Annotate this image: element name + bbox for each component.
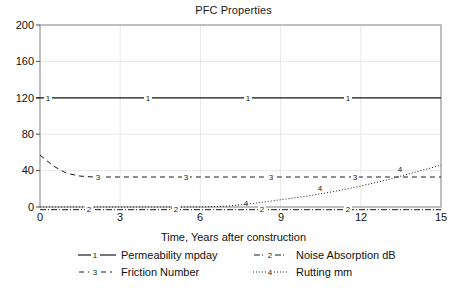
svg-text:2: 2 <box>87 205 92 214</box>
svg-text:1: 1 <box>146 94 151 103</box>
legend-swatch-dashdot-icon: 2 <box>253 249 293 261</box>
legend-entry-permeability: 1 Permeability mpday <box>78 249 253 261</box>
svg-text:1: 1 <box>246 94 251 103</box>
legend-row-2: 3 Friction Number 4 Rutting mm <box>78 263 418 280</box>
series-friction-number: 3 3 3 3 <box>40 155 441 182</box>
svg-text:3: 3 <box>184 173 189 182</box>
xtick-label-6: 6 <box>185 211 215 223</box>
svg-text:1: 1 <box>346 94 351 103</box>
ytick-label-200: 200 <box>0 19 34 31</box>
svg-text:3: 3 <box>93 268 98 277</box>
svg-text:4: 4 <box>244 199 249 208</box>
svg-text:3: 3 <box>353 173 358 182</box>
legend-label-rutting: Rutting mm <box>296 266 352 278</box>
series-permeability-mpday: 1 1 1 1 <box>36 93 441 104</box>
legend-label-noise-absorption: Noise Absorption dB <box>296 249 396 261</box>
legend-label-permeability: Permeability mpday <box>121 249 218 261</box>
legend-entry-noise-absorption: 2 Noise Absorption dB <box>253 249 396 261</box>
legend-swatch-dotted-icon: 4 <box>253 266 293 278</box>
x-axis-label: Time, Years after construction <box>0 231 467 243</box>
legend-swatch-dashed-icon: 3 <box>78 266 118 278</box>
xtick-label-9: 9 <box>266 211 296 223</box>
svg-text:4: 4 <box>268 268 273 277</box>
series-noise-absorption-db: 2 2 2 2 <box>40 204 441 214</box>
y-axis-ticks <box>36 25 40 207</box>
legend-row-1: 1 Permeability mpday 2 Noise Absorption … <box>78 246 418 263</box>
svg-text:2: 2 <box>174 205 179 214</box>
legend-entry-friction-number: 3 Friction Number <box>78 266 253 278</box>
chart-legend: 1 Permeability mpday 2 Noise Absorption … <box>78 246 418 280</box>
svg-text:2: 2 <box>260 205 265 214</box>
svg-text:4: 4 <box>398 165 403 174</box>
xtick-label-3: 3 <box>105 211 135 223</box>
xtick-label-15: 15 <box>426 211 456 223</box>
svg-text:2: 2 <box>268 251 273 260</box>
legend-entry-rutting: 4 Rutting mm <box>253 266 352 278</box>
svg-text:4: 4 <box>318 184 323 193</box>
ytick-label-40: 40 <box>0 164 34 176</box>
svg-text:3: 3 <box>96 173 101 182</box>
xtick-label-12: 12 <box>346 211 376 223</box>
ytick-label-80: 80 <box>0 128 34 140</box>
ytick-label-120: 120 <box>0 92 34 104</box>
ytick-label-160: 160 <box>0 55 34 67</box>
legend-swatch-solid-icon: 1 <box>78 249 118 261</box>
legend-label-friction-number: Friction Number <box>121 266 199 278</box>
svg-text:1: 1 <box>46 94 51 103</box>
svg-text:3: 3 <box>269 173 274 182</box>
svg-text:1: 1 <box>93 251 98 260</box>
xtick-label-0: 0 <box>25 211 55 223</box>
chart-figure: PFC Properties <box>0 0 467 291</box>
